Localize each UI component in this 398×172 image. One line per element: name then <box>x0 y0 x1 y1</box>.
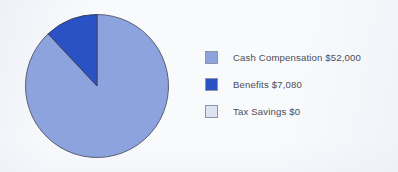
pie-chart-graphic <box>24 13 170 159</box>
legend-label-benefits: Benefits $7,080 <box>233 79 302 90</box>
legend-item-tax-savings: Tax Savings $0 <box>205 98 395 125</box>
legend-swatch-benefits <box>205 78 218 91</box>
legend-swatch-tax-savings <box>205 105 218 118</box>
legend-swatch-cash-compensation <box>205 51 218 64</box>
legend-label-tax-savings: Tax Savings $0 <box>233 106 300 117</box>
chart-legend: Cash Compensation $52,000 Benefits $7,08… <box>205 44 395 125</box>
pie-chart-figure: Cash Compensation $52,000 Benefits $7,08… <box>0 0 398 172</box>
legend-label-cash-compensation: Cash Compensation $52,000 <box>233 52 361 63</box>
legend-item-benefits: Benefits $7,080 <box>205 71 395 98</box>
legend-item-cash-compensation: Cash Compensation $52,000 <box>205 44 395 71</box>
